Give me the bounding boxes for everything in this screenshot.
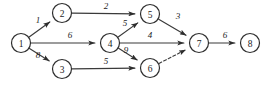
- edge-weight-1-4: 6: [68, 30, 73, 40]
- edge-weight-3-6: 5: [104, 56, 109, 66]
- edge-weight-4-5: 5: [123, 18, 128, 28]
- graph-canvas: 1682554936 12345678: [0, 0, 274, 89]
- node-6[interactable]: 6: [141, 59, 160, 78]
- edge-4-to-5: [118, 23, 138, 37]
- node-label-6: 6: [148, 64, 153, 74]
- node-label-4: 4: [108, 39, 113, 49]
- edge-weight-2-5: 2: [104, 1, 109, 11]
- nodes-layer: 12345678: [12, 4, 260, 79]
- edge-weight-4-7: 4: [148, 30, 153, 40]
- edge-weight-7-8: 6: [223, 30, 228, 40]
- edge-2-to-5: [72, 13, 135, 14]
- edge-weight-1-3: 8: [36, 50, 41, 60]
- edge-weight-5-7: 3: [175, 11, 181, 21]
- node-label-5: 5: [148, 10, 153, 20]
- node-3[interactable]: 3: [53, 60, 72, 79]
- node-5[interactable]: 5: [141, 5, 160, 24]
- node-8[interactable]: 8: [241, 34, 260, 53]
- node-7[interactable]: 7: [190, 34, 209, 53]
- node-label-8: 8: [248, 39, 253, 49]
- edge-3-to-6: [72, 68, 135, 69]
- edge-5-to-7: [159, 19, 186, 35]
- node-label-2: 2: [60, 9, 65, 19]
- edge-weight-4-6: 9: [124, 45, 129, 55]
- node-2[interactable]: 2: [53, 4, 72, 23]
- node-label-3: 3: [60, 65, 65, 75]
- node-4[interactable]: 4: [101, 34, 120, 53]
- edge-weight-1-2: 1: [36, 15, 41, 25]
- node-label-7: 7: [197, 39, 202, 49]
- node-1[interactable]: 1: [12, 34, 31, 53]
- node-label-1: 1: [19, 39, 24, 49]
- network-diagram: 1682554936 12345678: [0, 0, 274, 89]
- edge-6-to-7: [159, 50, 186, 64]
